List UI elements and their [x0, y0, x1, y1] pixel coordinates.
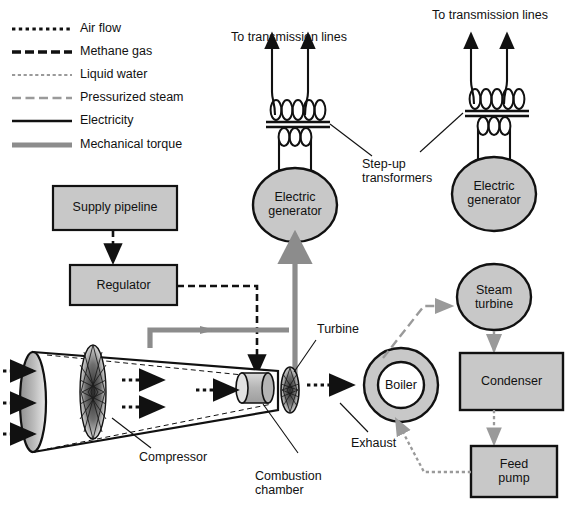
- label-condenser: Condenser: [460, 374, 563, 388]
- legend-label-methane-gas: Methane gas: [80, 44, 152, 58]
- legend: [12, 29, 72, 145]
- combustion-chamber-cylinder: [236, 373, 274, 403]
- torque-arrowhead-left: [200, 326, 215, 334]
- label-steam-turbine: Steam turbine: [457, 283, 531, 311]
- legend-label-pressurized-steam: Pressurized steam: [80, 90, 184, 104]
- label-turbine: Turbine: [317, 322, 359, 336]
- label-to-transmission-lines-left: To transmission lines: [231, 30, 347, 44]
- label-step-up-transformers: Step-up transformers: [362, 157, 432, 185]
- compressor-disk: [80, 345, 106, 439]
- label-electric-generator-right: Electric generator: [452, 179, 536, 207]
- legend-label-air-flow: Air flow: [80, 21, 121, 35]
- flow-water-feedpump-to-boiler: [396, 419, 471, 472]
- label-feed-pump: Feed pump: [471, 457, 557, 485]
- leader-step-up-left: [330, 124, 372, 156]
- diagram-canvas: Air flow Methane gas Liquid water Pressu…: [0, 0, 578, 516]
- label-to-transmission-lines-right: To transmission lines: [432, 8, 548, 22]
- legend-label-mechanical-torque: Mechanical torque: [80, 137, 182, 151]
- turbine-disk: [281, 367, 299, 413]
- leader-exhaust: [340, 403, 368, 432]
- gas-turbine-assembly[interactable]: [3, 345, 299, 452]
- label-supply-pipeline: Supply pipeline: [53, 200, 177, 214]
- label-combustion-chamber: Combustion chamber: [255, 469, 322, 497]
- label-exhaust: Exhaust: [351, 436, 396, 450]
- label-regulator: Regulator: [70, 278, 177, 292]
- legend-label-electricity: Electricity: [80, 113, 133, 127]
- torque-shaft-to-compressor: [150, 330, 289, 348]
- label-electric-generator-left: Electric generator: [253, 190, 337, 218]
- leader-step-up-right: [420, 113, 463, 152]
- legend-label-liquid-water: Liquid water: [80, 67, 147, 81]
- label-boiler: Boiler: [371, 378, 431, 392]
- label-compressor: Compressor: [139, 450, 207, 464]
